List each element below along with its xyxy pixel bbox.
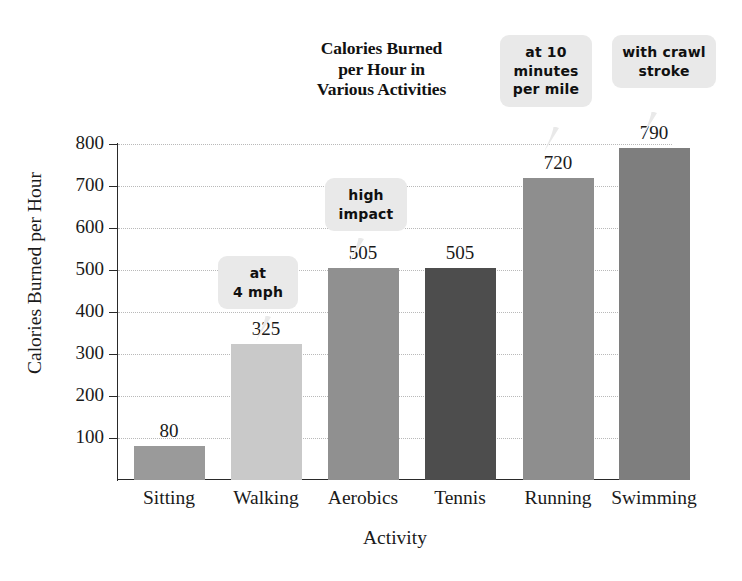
bar-walking [231,344,302,481]
bar-running [523,178,594,480]
callout-running: at 10minutesper mile [500,35,592,107]
bar-aerobics [328,268,399,480]
category-label-swimming: Swimming [594,487,714,509]
y-axis-title: Calories Burned per Hour [24,163,46,383]
callout-running-line-2: minutes [510,62,582,81]
bar-value-tennis: 505 [415,242,505,264]
y-tick-mark-100 [109,438,118,439]
y-tick-label-400: 400 [52,300,104,322]
callout-walking: at4 mph [218,256,298,309]
y-tick-label-800: 800 [52,132,104,154]
callout-aerobics-line-2: impact [335,205,397,224]
bar-value-sitting: 80 [124,420,214,442]
y-tick-mark-200 [109,396,118,397]
x-axis-title: Activity [118,527,672,549]
callout-tail-aerobics [345,238,365,264]
chart-title-line-1: Calories Burned [274,38,489,59]
bar-swimming [619,148,690,480]
y-tick-label-700: 700 [52,174,104,196]
callout-swimming-line-2: stroke [622,62,706,81]
bar-value-running: 720 [513,152,603,174]
y-tick-mark-700 [109,186,118,187]
chart-title-line-3: Various Activities [274,79,489,100]
callout-running-line-1: at 10 [510,43,582,62]
y-tick-mark-300 [109,354,118,355]
y-tick-mark-500 [109,270,118,271]
callout-swimming: with crawlstroke [612,35,716,88]
y-tick-mark-800 [109,144,118,145]
bar-tennis [425,268,496,480]
callout-running-line-3: per mile [510,80,582,99]
callout-tail-swimming [638,112,658,138]
callout-walking-line-2: 4 mph [228,283,288,302]
chart-title-line-2: per Hour in [274,59,489,80]
y-tick-label-200: 200 [52,384,104,406]
chart-title: Calories Burned per Hour in Various Acti… [274,38,489,100]
callout-aerobics-line-1: high [335,186,397,205]
y-tick-label-300: 300 [52,342,104,364]
y-tick-label-100: 100 [52,426,104,448]
callout-swimming-line-1: with crawl [622,43,706,62]
chart-canvas: Calories Burned per Hour in Various Acti… [0,0,742,581]
y-tick-mark-600 [109,228,118,229]
callout-tail-walking [252,316,272,342]
y-tick-label-600: 600 [52,216,104,238]
y-tick-label-500: 500 [52,258,104,280]
callout-tail-running [540,127,560,153]
bar-sitting [134,446,205,480]
y-tick-mark-400 [109,312,118,313]
callout-aerobics: highimpact [325,178,407,231]
callout-walking-line-1: at [228,264,288,283]
